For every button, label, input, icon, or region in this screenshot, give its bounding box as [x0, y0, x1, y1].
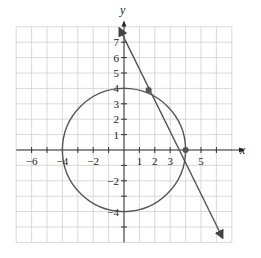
curves	[62, 28, 222, 237]
y-tick-label: 3	[114, 98, 120, 110]
x-tick-label: 3	[167, 155, 173, 167]
x-tick-label: −2	[87, 155, 99, 167]
line-curve	[119, 28, 222, 237]
y-tick-label: −2	[107, 175, 119, 187]
y-tick-label: 7	[114, 36, 120, 48]
y-tick-label: 6	[114, 52, 120, 64]
y-tick-label: 1	[114, 129, 120, 141]
x-tick-label: −6	[26, 155, 38, 167]
y-tick-label: 2	[114, 113, 120, 125]
intersection-point	[183, 147, 189, 153]
graph-plot: −6−4−212357654321−2−4 x y	[0, 0, 261, 258]
y-tick-label: −4	[107, 206, 119, 218]
tick-labels: −6−4−212357654321−2−4	[26, 36, 205, 217]
intersection-point	[146, 87, 152, 93]
x-tick-label: 2	[152, 155, 158, 167]
x-tick-label: −4	[57, 155, 69, 167]
y-axis-label: y	[119, 3, 126, 17]
axes	[16, 22, 244, 243]
y-tick-label: 4	[114, 82, 120, 94]
x-axis-label: x	[239, 143, 246, 157]
x-tick-label: 1	[137, 155, 143, 167]
x-tick-label: 5	[198, 155, 204, 167]
y-tick-label: 5	[114, 67, 120, 79]
